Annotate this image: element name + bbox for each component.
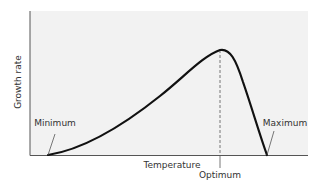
- plot-panel: [30, 11, 308, 155]
- growth-rate-chart: Growth rate Temperature Minimum Optimum …: [0, 0, 319, 185]
- maximum-label: Maximum: [263, 118, 307, 128]
- y-axis-label: Growth rate: [13, 55, 23, 109]
- minimum-label: Minimum: [34, 118, 76, 128]
- x-axis-label: Temperature: [142, 160, 200, 170]
- optimum-label: Optimum: [199, 170, 241, 180]
